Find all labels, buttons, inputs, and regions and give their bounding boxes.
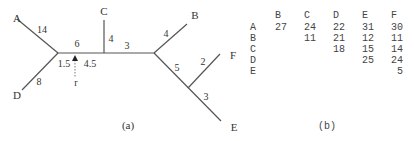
leaf-label-b: B xyxy=(191,9,198,21)
matrix-cell: 14 xyxy=(391,44,403,55)
root-label: r xyxy=(74,77,78,88)
matrix-cell: 11 xyxy=(304,33,316,44)
leaf-label-d: D xyxy=(13,89,21,101)
leaf-label-c: C xyxy=(100,5,107,17)
matrix-cell: 30 xyxy=(391,22,403,33)
figure-canvas: ABCDEF14861.54.5434523r BCDEFABCDE272422… xyxy=(0,0,414,141)
matrix-row-header: A xyxy=(250,22,256,33)
root-arrow-icon xyxy=(72,55,78,61)
matrix-cell: 12 xyxy=(362,33,374,44)
matrix-cell: 21 xyxy=(333,33,345,44)
edge-weight: 3 xyxy=(125,40,130,51)
matrix-row-header: B xyxy=(250,33,256,44)
matrix-row-header: C xyxy=(250,44,256,55)
leaf-label-f: F xyxy=(230,49,236,61)
matrix-col-header: C xyxy=(304,10,310,21)
matrix-cell: 5 xyxy=(397,66,403,77)
matrix-cell: 24 xyxy=(304,22,316,33)
leaf-label-a: A xyxy=(13,12,21,24)
edge-weight: 1.5 xyxy=(58,58,71,69)
edge-weight: 4.5 xyxy=(84,58,97,69)
figure: ABCDEF14861.54.5434523r BCDEFABCDE272422… xyxy=(0,0,414,141)
matrix-col-header: F xyxy=(391,10,397,21)
matrix-row-header: E xyxy=(250,66,256,77)
edge-weight: 8 xyxy=(37,76,42,87)
matrix-cell: 27 xyxy=(275,22,287,33)
matrix-cell: 11 xyxy=(391,33,403,44)
distance-matrix: BCDEFABCDE27242231301121121118151425245 xyxy=(250,10,403,77)
leaf-label-e: E xyxy=(231,121,238,133)
matrix-cell: 31 xyxy=(362,22,374,33)
edge-weight: 2 xyxy=(201,56,206,67)
caption-a: (a) xyxy=(122,119,135,132)
matrix-col-header: B xyxy=(275,10,281,21)
edge-weight: 3 xyxy=(204,91,209,102)
edge-weight: 14 xyxy=(37,24,47,35)
edge-weight: 5 xyxy=(175,62,180,73)
matrix-col-header: D xyxy=(333,10,339,21)
matrix-cell: 25 xyxy=(362,55,374,66)
matrix-cell: 18 xyxy=(333,44,345,55)
matrix-cell: 24 xyxy=(391,55,403,66)
matrix-row-header: D xyxy=(250,55,256,66)
edge-b xyxy=(154,24,187,53)
edge-weight: 6 xyxy=(75,38,80,49)
matrix-cell: 22 xyxy=(333,22,345,33)
caption-b: (b) xyxy=(318,121,336,132)
edge-weight: 4 xyxy=(109,33,114,44)
matrix-col-header: E xyxy=(362,10,368,21)
matrix-cell: 15 xyxy=(362,44,374,55)
edge-weight: 4 xyxy=(164,28,169,39)
phylogenetic-tree: ABCDEF14861.54.5434523r xyxy=(13,5,238,133)
